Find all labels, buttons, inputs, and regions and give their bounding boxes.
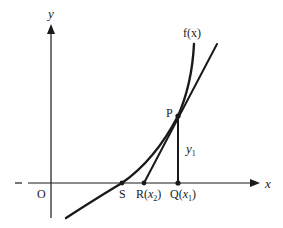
point-p [175, 113, 180, 118]
point-s [120, 181, 125, 186]
x-axis [15, 179, 260, 187]
y-axis [47, 24, 55, 218]
curve-label: f(x) [183, 26, 201, 40]
segment-y1-label: y1 [184, 141, 196, 158]
tangent-line [144, 44, 217, 183]
point-p-label: P [166, 106, 173, 120]
newton-method-diagram: y x O f(x) P S R(x2) Q(x1) y1 [0, 0, 283, 228]
y-axis-label: y [46, 6, 54, 21]
y-axis-arrow-icon [47, 24, 55, 34]
origin-label: O [37, 187, 46, 201]
point-q [175, 180, 180, 185]
point-q-label: Q(x1) [170, 187, 196, 203]
point-s-label: S [119, 187, 126, 201]
x-axis-arrow-icon [250, 179, 260, 187]
point-r [142, 181, 147, 186]
x-axis-label: x [264, 176, 271, 191]
point-r-label: R(x2) [136, 187, 161, 203]
